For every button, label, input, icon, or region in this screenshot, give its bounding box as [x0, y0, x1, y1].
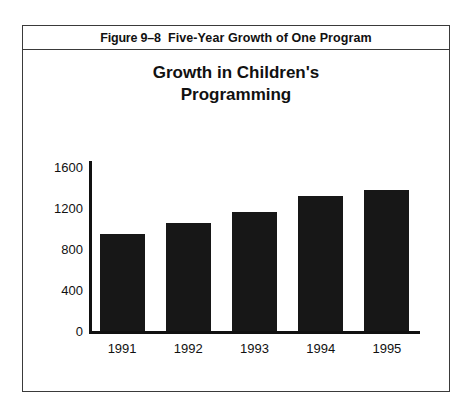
bar — [298, 196, 343, 331]
x-axis-tick-labels: 19911992199319941995 — [23, 341, 451, 363]
bar — [100, 234, 145, 331]
figure-screenshot: Figure 9–8 Five-Year Growth of One Progr… — [0, 0, 473, 417]
bar — [364, 190, 409, 331]
chart-plot-area: 040080012001600 19911992199319941995 — [23, 26, 451, 393]
bar-series — [23, 26, 451, 393]
x-tick-label: 1994 — [306, 341, 335, 356]
bar — [166, 223, 211, 331]
x-tick-label: 1991 — [108, 341, 137, 356]
figure-frame: Figure 9–8 Five-Year Growth of One Progr… — [22, 25, 450, 392]
x-tick-label: 1992 — [174, 341, 203, 356]
x-tick-label: 1993 — [240, 341, 269, 356]
x-tick-label: 1995 — [372, 341, 401, 356]
bar — [232, 212, 277, 331]
